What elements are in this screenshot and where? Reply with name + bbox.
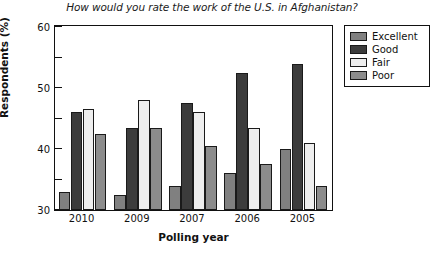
bar-poor-2007 xyxy=(205,146,217,210)
bar-poor-2009 xyxy=(150,128,162,210)
bar-fair-2005 xyxy=(304,143,316,210)
bar-fair-2009 xyxy=(138,100,150,210)
x-axis-title: Polling year xyxy=(54,231,333,243)
bar-group xyxy=(221,26,276,210)
legend-swatch-fair xyxy=(350,58,367,67)
chart-figure: How would you rate the work of the U.S. … xyxy=(0,0,432,253)
legend-label: Poor xyxy=(372,70,394,81)
bar-fair-2010 xyxy=(83,109,95,210)
legend-label: Good xyxy=(372,44,398,55)
legend-swatch-excellent xyxy=(350,32,367,41)
chart-legend: ExcellentGoodFairPoor xyxy=(344,25,430,87)
legend-item-good: Good xyxy=(350,43,425,56)
bar-good-2009 xyxy=(126,128,138,210)
plot-area: 0102030405060 xyxy=(54,25,333,211)
legend-swatch-poor xyxy=(350,71,367,80)
bar-fair-2007 xyxy=(193,112,205,210)
legend-item-fair: Fair xyxy=(350,56,425,69)
bar-excellent-2009 xyxy=(114,195,126,210)
bar-fair-2006 xyxy=(248,128,260,210)
bar-good-2010 xyxy=(71,112,83,210)
x-axis-tick-label: 2006 xyxy=(220,213,275,224)
y-axis-tick-label: 60 xyxy=(37,22,50,33)
x-axis-tick-label: 2007 xyxy=(164,213,219,224)
plot-inner: 0102030405060 xyxy=(55,26,332,210)
chart-title: How would you rate the work of the U.S. … xyxy=(52,1,372,13)
legend-item-excellent: Excellent xyxy=(350,30,425,43)
bar-excellent-2010 xyxy=(59,192,71,210)
bar-group xyxy=(110,26,165,210)
y-axis-tick-label: 30 xyxy=(37,205,50,216)
x-axis-tick-label: 2010 xyxy=(54,213,109,224)
bar-excellent-2005 xyxy=(280,149,292,210)
bar-poor-2006 xyxy=(260,164,272,210)
bar-good-2007 xyxy=(181,103,193,210)
x-axis-tick-label: 2009 xyxy=(109,213,164,224)
bar-group xyxy=(55,26,110,210)
legend-label: Excellent xyxy=(372,31,418,42)
y-axis-tick-label: 50 xyxy=(37,83,50,94)
bar-group xyxy=(165,26,220,210)
bar-good-2005 xyxy=(292,64,304,210)
legend-item-poor: Poor xyxy=(350,69,425,82)
bar-excellent-2006 xyxy=(224,173,236,210)
legend-swatch-good xyxy=(350,45,367,54)
bar-group xyxy=(276,26,331,210)
y-axis-title: Respondents (%) xyxy=(0,17,10,118)
y-axis-tick-label: 40 xyxy=(37,144,50,155)
bar-excellent-2007 xyxy=(169,186,181,210)
bar-good-2006 xyxy=(236,73,248,210)
x-axis-tick-label: 2005 xyxy=(275,213,330,224)
bar-poor-2005 xyxy=(316,186,328,210)
bar-poor-2010 xyxy=(95,134,107,210)
legend-label: Fair xyxy=(372,57,390,68)
